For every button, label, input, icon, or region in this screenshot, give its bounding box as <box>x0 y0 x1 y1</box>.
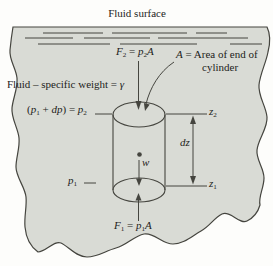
z2-label: z2 <box>209 105 217 118</box>
p2-label: (p1 + dp) = p2 <box>27 103 87 116</box>
w-label: w <box>142 156 149 169</box>
f2-label: F2 = p2A <box>116 45 154 58</box>
specific-weight-label: Fluid – specific weight = γ <box>7 78 124 91</box>
area-note-line1: A = Area of end of <box>176 48 258 61</box>
f1-label: F1 = p1A <box>114 219 152 232</box>
fluid-element-diagram: Fluid surface F2 = p2A A = Area of end o… <box>0 0 273 266</box>
z1-label: z1 <box>209 177 217 190</box>
fluid-surface-label: Fluid surface <box>87 7 187 20</box>
area-note-line2: cylinder <box>202 61 238 74</box>
dz-label: dz <box>180 136 190 149</box>
p1-label: p1 <box>68 174 77 187</box>
